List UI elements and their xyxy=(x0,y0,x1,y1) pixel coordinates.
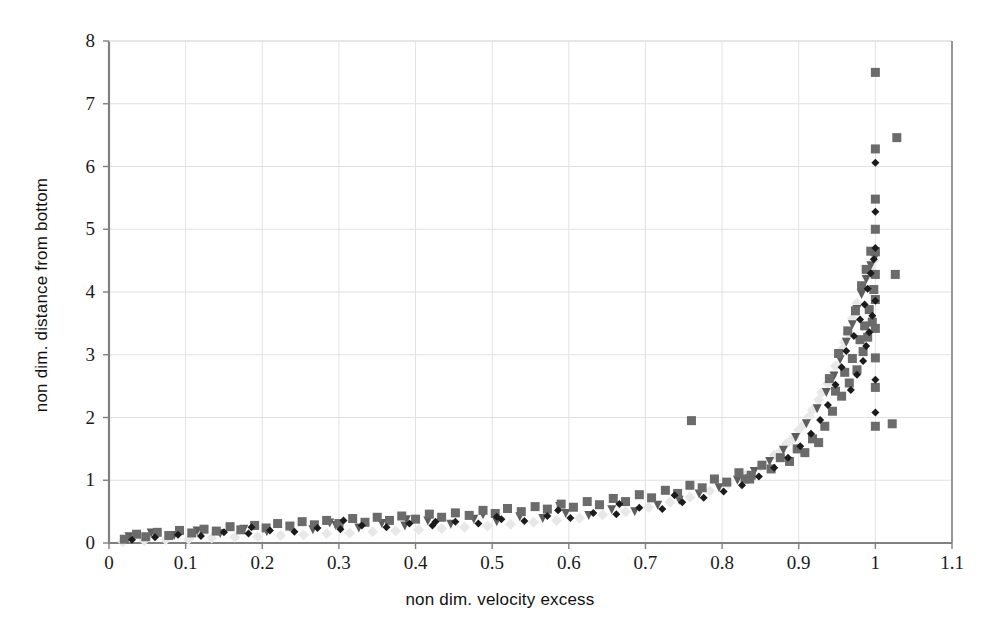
x-tick-label: 0.3 xyxy=(327,552,351,574)
data-point-square xyxy=(888,419,897,428)
data-point-square xyxy=(757,461,766,470)
data-point-square xyxy=(871,144,880,153)
data-point-square xyxy=(425,510,434,519)
y-tick-label: 4 xyxy=(55,281,95,303)
data-point-square xyxy=(373,513,382,522)
y-axis-title: non dim. distance from bottom xyxy=(32,85,52,505)
data-point-square xyxy=(647,493,656,502)
data-point-square xyxy=(226,522,235,531)
data-point-square xyxy=(837,392,846,401)
data-point-diamond xyxy=(620,506,631,517)
data-point-square xyxy=(437,513,446,522)
data-point-square xyxy=(141,532,150,541)
data-point-diamond xyxy=(551,515,562,526)
data-point-square xyxy=(503,504,512,513)
data-point-diamond xyxy=(566,514,574,522)
data-point-diamond xyxy=(252,531,263,542)
x-tick-label: 1 xyxy=(871,552,881,574)
x-axis-title: non dim. velocity excess xyxy=(0,590,1000,610)
data-point-diamond xyxy=(520,517,528,525)
series-series-3-medium-triangle xyxy=(124,252,879,541)
data-point-square xyxy=(745,475,754,484)
data-point-diamond xyxy=(459,522,470,533)
chart-figure: non dim. velocity excess non dim. distan… xyxy=(0,0,1000,641)
x-tick-label: 0.8 xyxy=(710,552,734,574)
data-point-diamond xyxy=(275,530,286,541)
data-point-square xyxy=(834,349,843,358)
x-tick-label: 0.5 xyxy=(480,552,504,574)
data-point-square xyxy=(164,531,173,540)
data-point-square xyxy=(348,514,357,523)
x-tick-label: 1.1 xyxy=(940,552,964,574)
data-point-square xyxy=(687,416,696,425)
x-tick-label: 0.4 xyxy=(404,552,428,574)
data-point-square xyxy=(860,321,869,330)
y-tick-label: 1 xyxy=(55,469,95,491)
data-point-square xyxy=(609,494,618,503)
y-tick-label: 5 xyxy=(55,218,95,240)
data-point-diamond xyxy=(871,376,879,384)
data-point-diamond xyxy=(390,526,401,537)
data-point-diamond xyxy=(720,488,728,496)
data-point-square xyxy=(710,475,719,484)
data-point-diamond xyxy=(700,494,708,502)
y-tick-label: 6 xyxy=(55,156,95,178)
data-point-diamond xyxy=(474,520,482,528)
data-point-square xyxy=(583,497,592,506)
series-series-1-dark-square xyxy=(120,68,901,544)
data-point-square xyxy=(451,508,460,517)
data-point-diamond xyxy=(321,528,332,539)
data-point-diamond xyxy=(505,519,516,530)
data-point-square xyxy=(820,422,829,431)
data-point-square xyxy=(595,500,604,509)
data-point-diamond xyxy=(298,529,309,540)
data-point-triangle xyxy=(857,290,866,299)
data-point-square xyxy=(298,517,307,526)
y-tick-label: 7 xyxy=(55,93,95,115)
data-point-square xyxy=(478,506,487,515)
data-point-diamond xyxy=(612,510,620,518)
y-tick-label: 8 xyxy=(55,30,95,52)
data-point-square xyxy=(411,515,420,524)
data-point-square xyxy=(120,535,129,544)
data-point-square xyxy=(465,511,474,520)
data-point-square xyxy=(531,502,540,511)
data-point-square xyxy=(776,453,785,462)
x-tick-label: 0.7 xyxy=(634,552,658,574)
x-tick-label: 0.9 xyxy=(787,552,811,574)
axes xyxy=(103,41,952,549)
data-point-square xyxy=(236,525,245,534)
data-point-square xyxy=(871,225,880,234)
series-series-4-light-marker xyxy=(117,255,879,547)
data-point-diamond xyxy=(574,512,585,523)
data-point-square xyxy=(891,270,900,279)
data-point-square xyxy=(892,133,901,142)
data-point-square xyxy=(187,528,196,537)
gridlines xyxy=(109,41,952,543)
data-point-square xyxy=(871,383,880,392)
data-point-square xyxy=(635,490,644,499)
y-tick-label: 0 xyxy=(55,532,95,554)
data-point-square xyxy=(848,354,857,363)
data-point-diamond xyxy=(344,527,355,538)
data-point-square xyxy=(814,438,823,447)
data-point-diamond xyxy=(658,505,666,513)
data-point-square xyxy=(722,478,731,487)
data-point-diamond xyxy=(859,357,867,365)
data-point-square xyxy=(212,527,221,536)
data-point-square xyxy=(851,306,860,315)
x-tick-label: 0 xyxy=(104,552,114,574)
data-point-square xyxy=(273,519,282,528)
data-point-square xyxy=(685,481,694,490)
data-point-diamond xyxy=(367,526,378,537)
data-point-diamond xyxy=(871,159,879,167)
data-point-square xyxy=(845,378,854,387)
data-point-diamond xyxy=(597,509,608,520)
scatter-plot-canvas xyxy=(0,0,1000,641)
data-point-diamond xyxy=(482,521,493,532)
data-point-square xyxy=(800,448,809,457)
data-point-square xyxy=(871,68,880,77)
data-point-square xyxy=(843,326,852,335)
series-series-2-black-diamond xyxy=(128,159,879,544)
data-point-square xyxy=(828,407,837,416)
